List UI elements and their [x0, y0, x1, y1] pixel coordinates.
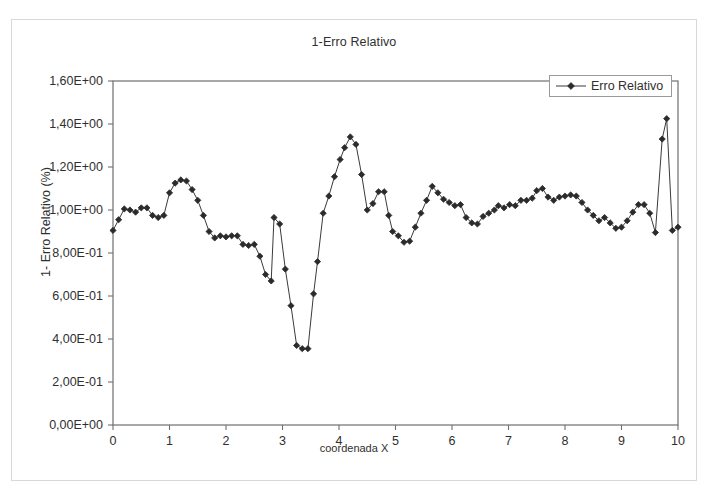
legend[interactable]: Erro Relativo: [549, 75, 672, 97]
axes: [108, 81, 678, 430]
legend-marker-icon: [556, 81, 586, 91]
legend-label: Erro Relativo: [591, 79, 663, 93]
chart-container: 1-Erro Relativo 1- Erro Relativo (%) coo…: [11, 19, 697, 481]
data-series-erro-relativo: [110, 116, 681, 352]
